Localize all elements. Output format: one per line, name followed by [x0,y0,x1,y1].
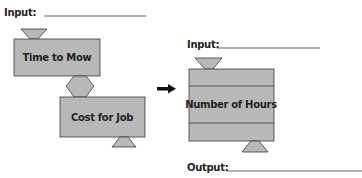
machine1-label: Time to Mow [23,52,92,63]
output-label: Output: [187,162,228,173]
machine3-output-funnel [242,141,268,152]
machine-connector [66,76,94,97]
right-arrow-icon [157,84,176,94]
machine2-label: Cost for Job [71,112,133,123]
function-machine-diagram: Input: Time to Mow Cost for Job Input: N… [0,0,362,178]
machine3-label: Number of Hours [185,99,277,110]
left-input-label: Input: [4,7,36,18]
machine2-output-funnel [112,137,136,147]
machine3-input-funnel [195,58,222,69]
machine1-input-funnel [21,29,47,39]
right-input-label: Input: [187,39,219,50]
